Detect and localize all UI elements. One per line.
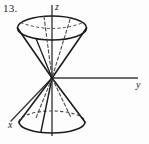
lower-cone-generator-back-a [36,78,52,118]
double-cone-diagram [0,0,149,144]
y-axis-label: y [136,80,140,90]
upper-cone-generator-right [52,28,87,78]
cone-vertex-origin [50,76,53,79]
problem-number-label: 13. [3,3,17,14]
z-axis-label: z [55,2,59,12]
figure-container: 13. z y x [0,0,149,144]
x-axis-label: x [8,120,12,130]
lower-cone-generator-right [52,78,85,122]
x-axis-line [11,78,52,121]
